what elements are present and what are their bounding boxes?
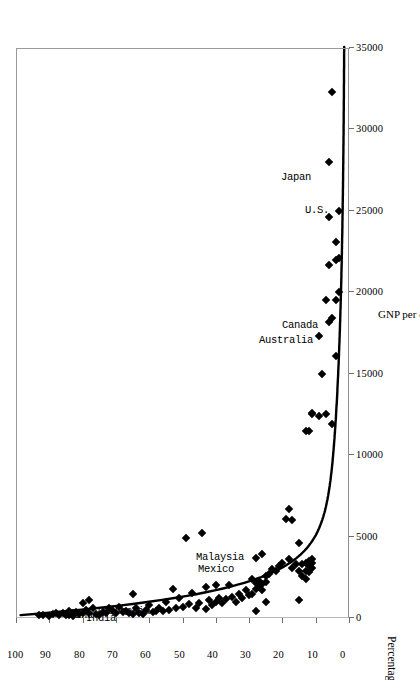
ag-tick-label: 20 — [273, 650, 284, 661]
ag-tick — [316, 618, 317, 623]
ag-tick — [16, 618, 17, 623]
annotation-indonesia: Indonesia — [96, 606, 150, 617]
ag-tick — [216, 618, 217, 623]
gnp-tick-label: 35000 — [356, 43, 383, 54]
annotation-canada: Canada — [282, 320, 318, 331]
chart-page: 05000100001500020000250003000035000 1009… — [0, 0, 420, 680]
ag-tick — [349, 618, 350, 623]
ag-tick — [282, 618, 283, 623]
figure: 05000100001500020000250003000035000 1009… — [0, 0, 420, 680]
gnp-tick — [349, 128, 354, 129]
gnp-tick — [349, 291, 354, 292]
ag-tick-label: 90 — [40, 650, 51, 661]
ag-tick-label: 50 — [174, 650, 185, 661]
gnp-tick — [349, 454, 354, 455]
regression-line — [21, 47, 345, 615]
gnp-tick — [349, 210, 354, 211]
ag-tick-label: 30 — [240, 650, 251, 661]
gnp-tick — [349, 373, 354, 374]
ag-tick — [116, 618, 117, 623]
ag-tick-label: 100 — [7, 650, 23, 661]
gnp-tick-label: 5000 — [356, 532, 378, 543]
ag-tick-label: 60 — [140, 650, 151, 661]
annotation-mexico: Mexico — [198, 564, 234, 575]
ag-tick — [249, 618, 250, 623]
ag-tick — [149, 618, 150, 623]
rotated-figure-container: 05000100001500020000250003000035000 1009… — [0, 0, 420, 680]
plot-frame-right — [16, 48, 350, 49]
gnp-tick-label: 25000 — [356, 206, 383, 217]
ag-tick-label: 80 — [74, 650, 85, 661]
gnp-tick-label: 0 — [356, 613, 361, 624]
gnp-tick-label: 15000 — [356, 369, 383, 380]
ag-tick-label: 0 — [340, 650, 345, 661]
ag-tick-label: 40 — [207, 650, 218, 661]
gnp-tick — [349, 536, 354, 537]
gnp-tick-label: 30000 — [356, 124, 383, 135]
gnp-tick — [349, 47, 354, 48]
gnp-tick-label: 20000 — [356, 287, 383, 298]
plot-frame-top — [16, 48, 17, 618]
annotation-us: U.S. — [305, 205, 329, 216]
ag-axis-title: Percentage of agricultural labor force (… — [386, 636, 398, 680]
annotation-japan: Japan — [281, 172, 311, 183]
plot-area — [16, 48, 349, 618]
annotation-malaysia: Malaysia — [196, 553, 244, 564]
fit-curve — [16, 47, 349, 617]
ag-tick — [183, 618, 184, 623]
gnp-tick-label: 10000 — [356, 450, 383, 461]
gnp-axis-title: GNP per capita (y) — [378, 308, 420, 320]
annotation-australia: Australia — [259, 335, 313, 346]
ag-tick-label: 70 — [107, 650, 118, 661]
ag-tick-label: 10 — [307, 650, 318, 661]
